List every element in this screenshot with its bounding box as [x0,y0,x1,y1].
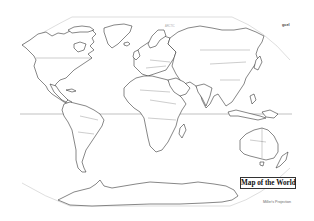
indonesia [228,110,266,120]
philippines [250,94,256,104]
madagascar [179,124,186,138]
tasmania [260,162,264,166]
south-america [62,102,104,172]
australia [240,128,278,160]
caribbean [66,89,76,92]
world-map: gcel ARCTIC Map of the World Miller's Pr… [0,0,314,221]
iceland [124,42,130,46]
antarctica [58,180,238,206]
projection-caption: Miller's Projection [263,200,291,204]
new-guinea [262,110,278,118]
map-title: Map of the World [240,177,296,189]
corner-label: gcel [282,23,290,27]
new-zealand [276,152,288,168]
asia [168,26,264,108]
arctic-label: ARCTIC [165,25,175,28]
